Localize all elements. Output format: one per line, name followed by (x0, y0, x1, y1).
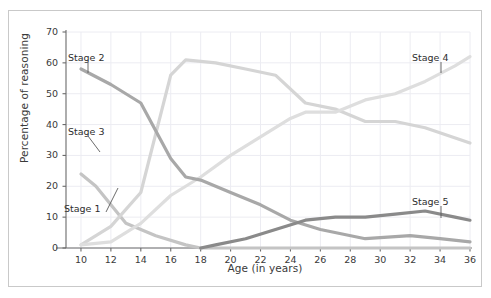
x-tick-12: 12 (101, 254, 121, 265)
x-tick-20: 20 (221, 254, 241, 265)
figure-container: Percentage of reasoning Age (in years) 0… (0, 0, 491, 298)
series-annotation-stage1: Stage 1 (64, 203, 101, 214)
x-tick-16: 16 (161, 254, 181, 265)
x-tick-28: 28 (340, 254, 360, 265)
series-annotation-stage5: Stage 5 (412, 196, 449, 207)
x-tick-22: 22 (251, 254, 271, 265)
series-annotation-stage2: Stage 2 (68, 52, 105, 63)
x-tick-32: 32 (400, 254, 420, 265)
y-tick-70: 70 (26, 26, 58, 37)
gridlines (66, 32, 470, 248)
x-tick-24: 24 (280, 254, 300, 265)
x-tick-26: 26 (310, 254, 330, 265)
series-line-stage-5 (201, 211, 470, 248)
series-annotation-stage4: Stage 4 (412, 52, 449, 63)
y-tick-50: 50 (26, 88, 58, 99)
x-tick-14: 14 (131, 254, 151, 265)
y-tick-40: 40 (26, 119, 58, 130)
x-tick-34: 34 (430, 254, 450, 265)
y-tick-30: 30 (26, 149, 58, 160)
x-tick-18: 18 (191, 254, 211, 265)
data-series-layer (81, 57, 470, 248)
series-annotation-stage3: Stage 3 (68, 126, 105, 137)
y-tick-20: 20 (26, 180, 58, 191)
x-tick-36: 36 (460, 254, 480, 265)
y-tick-60: 60 (26, 57, 58, 68)
x-tick-30: 30 (370, 254, 390, 265)
y-tick-0: 0 (26, 242, 58, 253)
y-tick-10: 10 (26, 211, 58, 222)
x-tick-10: 10 (71, 254, 91, 265)
